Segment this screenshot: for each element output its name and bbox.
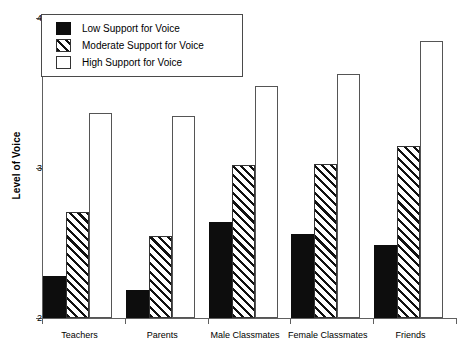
bar-moderate [66,212,89,319]
legend-item: High Support for Voice [56,54,236,71]
bar-low [291,234,314,318]
y-tick-label: 2 [8,313,42,323]
x-axis-line [42,318,456,319]
y-tick-label: 3 [8,163,42,173]
x-tick-mark [290,318,291,324]
bar-high [255,86,278,319]
bar-low [209,222,232,318]
legend-label: Moderate Support for Voice [82,40,204,51]
y-axis-tick: 3 [0,168,42,169]
legend-swatch-moderate-icon [56,39,71,52]
bar-moderate [149,236,172,319]
x-tick-mark [208,318,209,324]
bar-high [420,41,443,319]
bar-low [126,290,149,319]
x-category-label: Female Classmates [288,330,368,340]
legend-item: Moderate Support for Voice [56,37,236,54]
chart-legend: Low Support for Voice Moderate Support f… [41,14,243,77]
x-tick-mark [456,318,457,324]
bar-moderate [397,146,420,319]
x-category-label: Teachers [61,330,98,340]
bar-high [89,113,112,319]
legend-swatch-low-icon [56,22,71,35]
bar-low [374,245,397,319]
bar-moderate [314,164,337,319]
legend-swatch-high-icon [56,56,71,69]
x-category-label: Friends [396,330,426,340]
x-category-label: Parents [147,330,178,340]
bar-low [43,276,66,318]
legend-label: Low Support for Voice [82,23,180,34]
y-tick-label: 4 [8,13,42,23]
x-tick-mark [373,318,374,324]
legend-item: Low Support for Voice [56,20,236,37]
bar-high [172,116,195,319]
y-axis-tick: 4 [0,18,42,19]
legend-label: High Support for Voice [82,57,182,68]
x-tick-mark [125,318,126,324]
y-axis-tick: 2 [0,318,42,319]
x-category-label: Male Classmates [210,330,279,340]
bar-moderate [232,165,255,318]
bar-chart: Level of Voice 234 TeachersParentsMale C… [0,0,461,354]
bar-high [337,74,360,319]
x-tick-mark [42,318,43,324]
